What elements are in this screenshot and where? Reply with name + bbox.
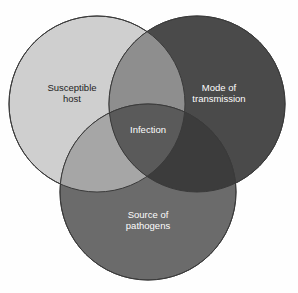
susceptible-host-label-line2: host bbox=[63, 93, 81, 104]
label-source-of-pathogens: Source of pathogens bbox=[126, 209, 171, 231]
venn-diagram: Susceptible host Mode of transmission So… bbox=[0, 0, 298, 293]
infection-label: Infection bbox=[130, 124, 166, 135]
mode-of-transmission-label-line1: Mode of bbox=[202, 82, 237, 93]
venn-diagram-canvas: Susceptible host Mode of transmission So… bbox=[0, 0, 298, 293]
source-of-pathogens-label-line1: Source of bbox=[128, 209, 169, 220]
source-of-pathogens-label-line2: pathogens bbox=[126, 220, 171, 231]
susceptible-host-label-line1: Susceptible bbox=[47, 82, 96, 93]
mode-of-transmission-label-line2: transmission bbox=[192, 93, 245, 104]
